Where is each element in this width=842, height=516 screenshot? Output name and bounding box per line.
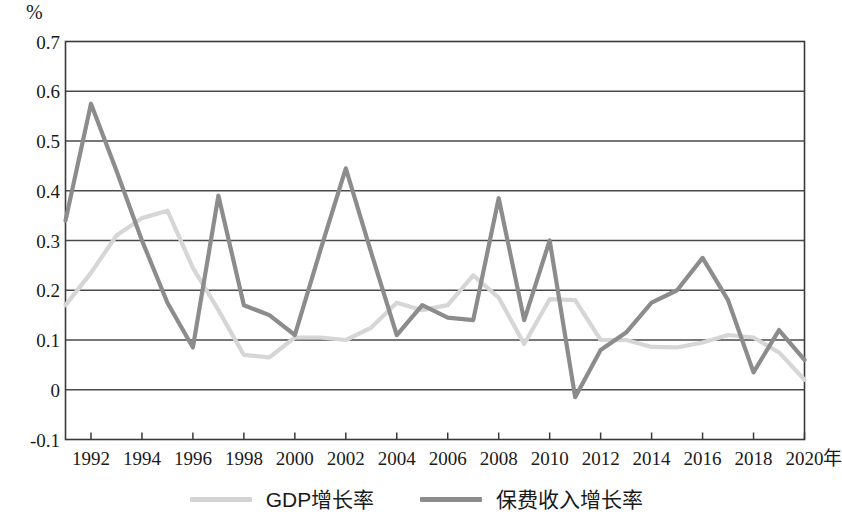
x-tick-label: 2014	[633, 448, 671, 470]
chart-legend: GDP增长率保费收入增长率	[0, 483, 833, 516]
legend-item-2[interactable]: 保费收入增长率	[420, 488, 643, 511]
legend-item-1[interactable]: GDP增长率	[190, 488, 375, 511]
x-tick-label: 2020	[786, 448, 824, 470]
x-tick-label: 2004	[378, 448, 416, 470]
x-tick-label: 2006	[429, 448, 467, 470]
x-tick-label: 1998	[225, 448, 263, 470]
x-tick-label: 2010	[531, 448, 569, 470]
legend-label: 保费收入增长率	[496, 488, 643, 511]
x-axis-tick-labels: 1992199419961998200020022004200620082010…	[0, 448, 833, 478]
legend-swatch-icon	[190, 497, 252, 502]
x-tick-label: 2012	[582, 448, 620, 470]
legend-label: GDP增长率	[266, 488, 375, 511]
x-tick-label: 2016	[684, 448, 722, 470]
x-tick-label: 1994	[123, 448, 161, 470]
x-tick-label: 2008	[480, 448, 518, 470]
x-axis-ticks	[91, 433, 805, 440]
plot-area	[0, 0, 833, 470]
series-line-1	[66, 211, 805, 380]
x-tick-label: 2018	[735, 448, 773, 470]
x-tick-label: 2000	[276, 448, 314, 470]
x-tick-label: 1992	[72, 448, 110, 470]
x-axis-unit-label: 年	[823, 448, 842, 470]
x-tick-label: 1996	[174, 448, 212, 470]
x-tick-label: 2002	[327, 448, 365, 470]
data-series-layer	[66, 104, 805, 398]
series-line-2	[66, 104, 805, 398]
legend-swatch-icon	[420, 497, 482, 502]
